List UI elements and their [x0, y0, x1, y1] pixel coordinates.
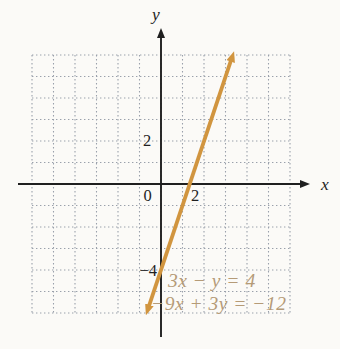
x-axis-label: x: [320, 174, 329, 194]
x-tick-label-2: 2: [191, 186, 199, 205]
equation-label-1: 3x − y = 4: [167, 270, 256, 291]
y-tick-label-neg4: −4: [139, 261, 157, 280]
y-axis-label: y: [150, 4, 160, 24]
y-tick-label-2: 2: [143, 131, 151, 150]
coordinate-plane: y x 0 2 2 −4 3x − y = 4 −9x + 3y = −12: [0, 0, 340, 349]
origin-label: 0: [143, 186, 151, 205]
equation-label-2: −9x + 3y = −12: [151, 293, 286, 314]
graph-figure: y x 0 2 2 −4 3x − y = 4 −9x + 3y = −12: [0, 0, 340, 349]
